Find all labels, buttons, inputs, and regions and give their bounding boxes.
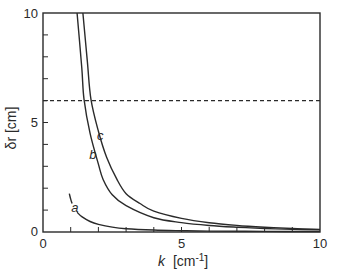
curve-b bbox=[77, 13, 320, 230]
chart: 10 5 0 0 5 10 k [cm-1] δr [cm] abc bbox=[0, 0, 337, 272]
x-axis-unit: [cm bbox=[173, 253, 196, 269]
curves bbox=[69, 13, 320, 232]
y-tick-label-5: 5 bbox=[31, 115, 38, 130]
curve-c bbox=[83, 13, 320, 229]
plot-frame bbox=[43, 13, 320, 232]
x-axis-unit-close: ] bbox=[204, 253, 208, 269]
x-axis-label: k [cm-1] bbox=[158, 252, 208, 269]
x-tick-label-0: 0 bbox=[39, 236, 46, 251]
curve-label-b: b bbox=[89, 147, 96, 162]
x-tick-label-10: 10 bbox=[313, 236, 327, 251]
curve-label-c: c bbox=[97, 128, 104, 143]
curve-label-a: a bbox=[71, 200, 78, 215]
x-tick-label-5: 5 bbox=[178, 236, 185, 251]
y-tick-label-10: 10 bbox=[24, 6, 38, 21]
y-axis-label: δr [cm] bbox=[3, 107, 19, 150]
x-axis-variable: k bbox=[158, 253, 166, 269]
axis-ticks bbox=[43, 35, 292, 232]
y-tick-label-0: 0 bbox=[31, 224, 38, 239]
curve-labels: abc bbox=[71, 128, 104, 215]
